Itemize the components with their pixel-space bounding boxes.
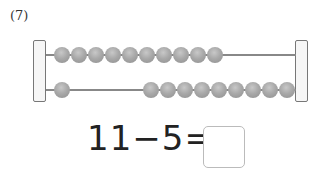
answer-box[interactable] xyxy=(203,126,245,168)
bead xyxy=(245,82,261,98)
abacus-right-frame xyxy=(295,40,308,102)
bead xyxy=(211,82,227,98)
bead xyxy=(160,82,176,98)
equation-text: 11−5= xyxy=(87,118,214,158)
bead xyxy=(190,47,206,63)
bead xyxy=(122,47,138,63)
bead xyxy=(194,82,210,98)
bead xyxy=(105,47,121,63)
bead xyxy=(54,47,70,63)
bead xyxy=(143,82,159,98)
bead xyxy=(54,82,70,98)
bead xyxy=(228,82,244,98)
bead xyxy=(279,82,295,98)
bead xyxy=(88,47,104,63)
bead xyxy=(177,82,193,98)
bead xyxy=(156,47,172,63)
problem-number: (7) xyxy=(10,8,28,23)
bead xyxy=(207,47,223,63)
bead xyxy=(262,82,278,98)
bead xyxy=(71,47,87,63)
bead xyxy=(173,47,189,63)
bead xyxy=(139,47,155,63)
abacus-left-frame xyxy=(33,40,46,102)
